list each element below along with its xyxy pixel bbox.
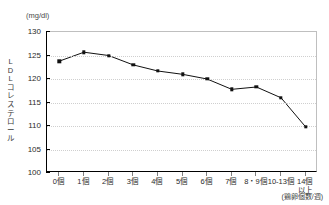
x-tick-mark: [206, 172, 207, 176]
x-tick-label-line1: 14個: [292, 177, 317, 186]
y-gridline: [47, 56, 316, 57]
x-tick-label: 7個: [218, 177, 243, 186]
x-tick-label-line1: 8・9個: [243, 177, 268, 186]
y-tick-mark: [46, 31, 50, 32]
y-tick-label: 100: [28, 168, 41, 177]
x-tick-label-line1: 10-13個: [268, 177, 293, 186]
y-gridline: [47, 79, 316, 80]
data-point-marker: [255, 85, 258, 88]
x-tick-label: 5個: [169, 177, 194, 186]
x-tick-mark: [231, 172, 232, 176]
x-tick-label-line1: 7個: [218, 177, 243, 186]
x-tick-label: 10-13個: [268, 177, 293, 186]
x-tick-label: 1個: [71, 177, 96, 186]
data-point-marker: [230, 88, 233, 91]
x-tick-label-line1: 6個: [194, 177, 219, 186]
data-point-marker: [181, 73, 184, 76]
y-axis-unit-label: (mg/dl): [26, 11, 49, 20]
x-tick-mark: [305, 172, 306, 176]
x-tick-label-line1: 0個: [46, 177, 71, 186]
data-point-marker: [205, 77, 208, 80]
y-tick-label: 110: [28, 121, 41, 130]
x-tick-label-line1: 4個: [145, 177, 170, 186]
data-point-marker: [107, 54, 110, 57]
data-point-marker: [132, 63, 135, 66]
x-tick-mark: [58, 172, 59, 176]
y-tick-label: 105: [28, 144, 41, 153]
y-tick-mark: [46, 149, 50, 150]
x-tick-mark: [83, 172, 84, 176]
y-tick-mark: [46, 125, 50, 126]
y-axis-title: LDLコレステロール: [5, 58, 16, 144]
x-tick-label-line2: 以上: [292, 186, 317, 195]
x-tick-label: 6個: [194, 177, 219, 186]
data-point-marker: [58, 59, 61, 62]
data-point-marker: [156, 69, 159, 72]
chart-root: (mg/dl) LDLコレステロール (鶏卵個数/週) 100105110115…: [0, 0, 329, 205]
x-tick-mark: [157, 172, 158, 176]
x-tick-mark: [280, 172, 281, 176]
y-tick-mark: [46, 55, 50, 56]
x-tick-label-line1: 3個: [120, 177, 145, 186]
y-gridline: [47, 150, 316, 151]
x-tick-label: 4個: [145, 177, 170, 186]
x-tick-mark: [108, 172, 109, 176]
y-gridline: [47, 126, 316, 127]
y-tick-mark: [46, 102, 50, 103]
x-tick-mark: [255, 172, 256, 176]
x-tick-label: 0個: [46, 177, 71, 186]
data-point-marker: [279, 96, 282, 99]
y-axis-title-char: ル: [5, 135, 16, 144]
x-tick-mark: [132, 172, 133, 176]
y-tick-mark: [46, 172, 50, 173]
cropped-title-strip: [0, 0, 329, 9]
x-tick-mark: [182, 172, 183, 176]
y-tick-label: 130: [28, 27, 41, 36]
y-tick-label: 125: [28, 50, 41, 59]
data-point-marker: [304, 125, 307, 128]
data-line: [59, 52, 305, 127]
x-tick-label-line1: 5個: [169, 177, 194, 186]
y-tick-label: 115: [28, 97, 41, 106]
x-tick-label-line1: 2個: [95, 177, 120, 186]
x-tick-label: 8・9個: [243, 177, 268, 186]
y-gridline: [47, 103, 316, 104]
data-point-marker: [82, 51, 85, 54]
x-tick-label: 3個: [120, 177, 145, 186]
plot-area: [46, 31, 317, 172]
y-tick-label: 120: [28, 74, 41, 83]
x-tick-label: 2個: [95, 177, 120, 186]
x-tick-label-line1: 1個: [71, 177, 96, 186]
x-tick-label: 14個以上: [292, 177, 317, 195]
y-tick-mark: [46, 78, 50, 79]
